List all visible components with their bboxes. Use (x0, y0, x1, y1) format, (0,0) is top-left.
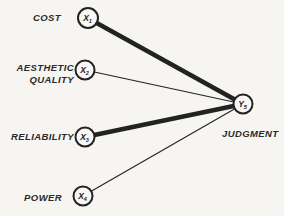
label-reliability: RELIABILITY (11, 131, 75, 142)
diagram-canvas: X1X2X3X4Y5COSTAESTHETICQUALITYRELIABILIT… (0, 0, 284, 216)
label-judgment: JUDGMENT (222, 128, 279, 139)
edge-x3-y5-strong (94, 106, 233, 135)
path-diagram-figure: X1X2X3X4Y5COSTAESTHETICQUALITYRELIABILIT… (0, 0, 284, 216)
label-cost: COST (33, 12, 62, 23)
node-y5: Y5 (234, 95, 253, 114)
node-x2: X2 (76, 61, 95, 80)
label-aesthetic: AESTHETICQUALITY (16, 62, 76, 85)
label-power: POWER (24, 192, 62, 203)
node-x1: X1 (78, 8, 98, 28)
node-x3: X3 (76, 128, 95, 147)
node-x4: X4 (74, 187, 93, 206)
